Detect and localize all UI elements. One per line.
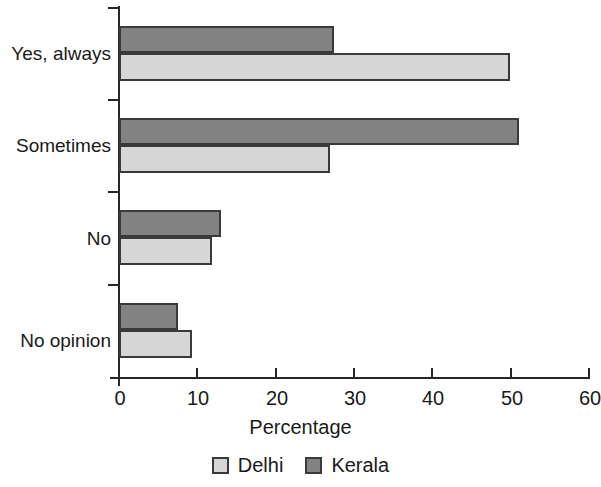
category-label-yes-always: Yes, always	[0, 43, 111, 65]
x-axis-tick	[275, 368, 277, 379]
bar-delhi-no	[119, 237, 212, 265]
x-tick-label-0: 0	[90, 386, 150, 410]
x-axis-tick	[118, 368, 120, 379]
x-tick-label-60: 60	[560, 386, 601, 410]
x-tick-label-20: 20	[247, 386, 307, 410]
x-tick-label-40: 40	[403, 386, 463, 410]
x-axis-tick	[353, 368, 355, 379]
bar-kerala-no-opinion	[119, 303, 178, 330]
legend-item-kerala: Kerala	[305, 453, 389, 477]
category-label-no-opinion: No opinion	[0, 330, 111, 352]
x-tick-label-10: 10	[168, 386, 228, 410]
bar-delhi-no-opinion	[119, 330, 192, 358]
y-axis-tick	[108, 191, 119, 193]
x-axis-tick	[196, 368, 198, 379]
bar-delhi-sometimes	[119, 145, 330, 173]
x-axis-tick	[510, 368, 512, 379]
category-label-sometimes: Sometimes	[0, 135, 111, 157]
x-axis-line	[110, 377, 589, 379]
light-gray-swatch-icon	[212, 457, 229, 474]
legend-label-kerala: Kerala	[331, 453, 389, 477]
bar-delhi-yes-always	[119, 53, 510, 81]
bar-kerala-yes-always	[119, 26, 334, 53]
x-tick-label-50: 50	[482, 386, 542, 410]
legend-label-delhi: Delhi	[238, 453, 284, 477]
y-axis-tick	[108, 7, 119, 9]
y-axis-tick	[108, 99, 119, 101]
legend-item-delhi: Delhi	[212, 453, 284, 477]
bar-kerala-no	[119, 210, 221, 237]
x-axis-title: Percentage	[0, 415, 601, 439]
chart-legend: Delhi Kerala	[0, 453, 601, 477]
x-axis-tick	[588, 368, 590, 379]
bar-kerala-sometimes	[119, 118, 519, 145]
dark-gray-swatch-icon	[305, 457, 322, 474]
y-axis-tick	[108, 284, 119, 286]
horizontal-bar-chart: Yes, always Sometimes No No opinion 0 10…	[0, 0, 601, 487]
category-label-no: No	[0, 228, 111, 250]
x-axis-tick	[431, 368, 433, 379]
x-tick-label-30: 30	[325, 386, 385, 410]
